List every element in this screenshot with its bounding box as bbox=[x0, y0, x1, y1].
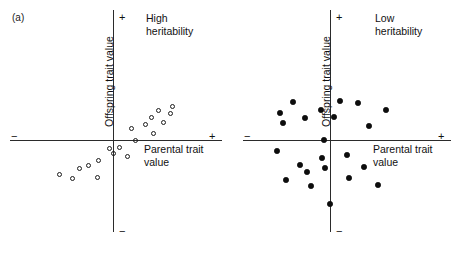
panel-high-heritability: (a) − + + − Offspring trait value Parent… bbox=[0, 0, 230, 260]
data-point bbox=[133, 138, 138, 143]
data-point bbox=[280, 120, 286, 126]
x-axis-minus-sign-right: − bbox=[244, 131, 250, 142]
data-point bbox=[149, 115, 154, 120]
y-axis-title-right: Offspring trait value bbox=[321, 36, 332, 127]
data-point bbox=[95, 175, 100, 180]
data-point bbox=[318, 107, 324, 113]
data-point bbox=[355, 100, 361, 106]
data-point bbox=[156, 108, 161, 113]
data-point bbox=[337, 98, 343, 104]
data-point bbox=[302, 115, 308, 121]
data-point bbox=[170, 104, 175, 109]
data-point bbox=[57, 172, 62, 177]
data-point bbox=[383, 107, 389, 113]
x-axis-line-right bbox=[243, 140, 451, 141]
data-point bbox=[70, 176, 75, 181]
data-point bbox=[308, 183, 314, 189]
y-axis-minus-sign-right: − bbox=[336, 226, 342, 237]
data-point bbox=[117, 145, 122, 150]
y-axis-plus-sign-left: + bbox=[119, 12, 125, 23]
data-point bbox=[77, 166, 82, 171]
x-axis-title-right: Parental trait value bbox=[373, 143, 433, 168]
data-point bbox=[304, 169, 310, 175]
panel-letter-label: (a) bbox=[12, 12, 24, 23]
data-point bbox=[143, 122, 148, 127]
data-point bbox=[319, 155, 325, 161]
data-point bbox=[375, 182, 381, 188]
x-axis-title-left: Parental trait value bbox=[144, 143, 204, 168]
data-point bbox=[274, 148, 280, 154]
y-axis-plus-sign-right: + bbox=[336, 12, 342, 23]
data-point bbox=[344, 152, 350, 158]
data-point bbox=[322, 165, 328, 171]
data-point bbox=[168, 111, 173, 116]
x-axis-minus-sign-left: − bbox=[11, 131, 17, 142]
y-axis-title-left: Offspring trait value bbox=[104, 36, 115, 127]
data-point bbox=[361, 164, 367, 170]
x-axis-line-left bbox=[10, 140, 222, 141]
data-point bbox=[331, 114, 337, 120]
figure-scatter-heritability: (a) − + + − Offspring trait value Parent… bbox=[0, 0, 459, 260]
data-point bbox=[290, 99, 296, 105]
panel-title-left: High heritability bbox=[146, 12, 193, 37]
data-point bbox=[277, 110, 283, 116]
data-point bbox=[151, 131, 156, 136]
data-point bbox=[297, 162, 303, 168]
data-point bbox=[129, 126, 134, 131]
x-axis-plus-sign-right: + bbox=[438, 131, 444, 142]
data-point bbox=[283, 177, 289, 183]
data-point bbox=[346, 175, 352, 181]
panel-title-right: Low heritability bbox=[375, 12, 422, 37]
x-axis-plus-sign-left: + bbox=[209, 131, 215, 142]
y-axis-minus-sign-left: − bbox=[119, 226, 125, 237]
data-point bbox=[321, 137, 327, 143]
data-point bbox=[96, 158, 101, 163]
data-point bbox=[161, 120, 166, 125]
data-point bbox=[366, 123, 372, 129]
panel-low-heritability: − + + − Offspring trait value Parental t… bbox=[229, 0, 459, 260]
data-point bbox=[107, 146, 112, 151]
data-point bbox=[327, 201, 333, 207]
data-point bbox=[86, 163, 91, 168]
data-point bbox=[125, 154, 130, 159]
data-point bbox=[111, 151, 116, 156]
